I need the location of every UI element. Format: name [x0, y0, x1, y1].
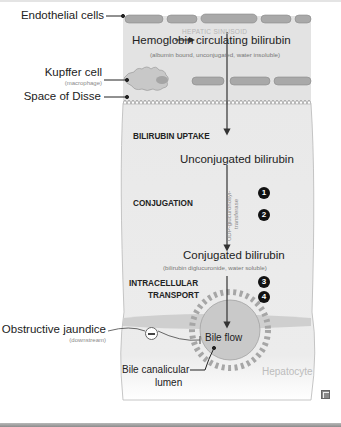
marker-3: 3	[258, 276, 270, 288]
inhibition-icon	[145, 327, 158, 340]
label-lumen-line1: Bile canalicular	[122, 364, 189, 375]
label-conjugated-bilirubin: Conjugated bilirubin	[183, 249, 285, 261]
label-enzyme-line1: UDP-glucuronosyl-	[226, 191, 232, 241]
stage-intracellular: INTRACELLULAR	[129, 279, 198, 288]
marker-4: 4	[258, 291, 270, 303]
liver-bilirubin-diagram	[0, 0, 341, 427]
stage-conjugation: CONJUGATION	[133, 199, 193, 208]
label-circulating-bilirubin: circulating bilirubin	[196, 34, 291, 46]
marker-2: 2	[258, 209, 270, 221]
label-conjugated-sub: (bilirubin diglucuronide, water soluble)	[163, 264, 267, 271]
stage-bilirubin-uptake: BILIRUBIN UPTAKE	[133, 132, 210, 141]
label-unconjugated-bilirubin: Unconjugated bilirubin	[180, 153, 294, 165]
bottom-divider	[0, 423, 341, 427]
label-obstructive-sub: (downstream)	[69, 337, 106, 343]
label-obstructive-jaundice: Obstructive jaundice	[2, 323, 106, 335]
stage-transport: TRANSPORT	[148, 291, 199, 300]
label-kupffer-sub: (macrophage)	[65, 80, 102, 86]
label-hemoglobin: Hemoglobin	[132, 34, 193, 46]
label-endothelial-cells: Endothelial cells	[21, 9, 104, 21]
label-circulating-sub: (albumin bound, unconjugated, water inso…	[150, 51, 280, 58]
marker-1: 1	[258, 187, 270, 199]
label-enzyme-line2: transferase	[233, 199, 239, 229]
kupffer-nucleus	[156, 76, 168, 84]
expand-image-icon[interactable]	[321, 390, 330, 399]
label-lumen-line2: lumen	[155, 377, 182, 388]
label-bile-flow: Bile flow	[205, 332, 242, 343]
label-space-of-disse: Space of Disse	[24, 90, 101, 102]
label-hepatocyte: Hepatocyte	[262, 366, 313, 377]
endothelial-cells	[125, 14, 311, 23]
label-kupffer-cell: Kupffer cell	[45, 66, 102, 78]
